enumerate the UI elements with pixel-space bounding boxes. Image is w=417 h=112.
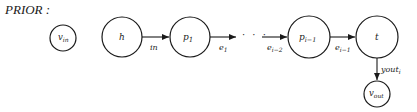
svg-text:e1: e1 xyxy=(219,43,228,53)
node-t: t xyxy=(356,16,398,58)
node-v-out: vout xyxy=(364,81,390,107)
node-p-i-minus-1: pi−1 xyxy=(288,16,330,58)
svg-text:in: in xyxy=(150,43,158,52)
node-v-in: vin xyxy=(50,25,76,51)
diagram-title: PRIOR : xyxy=(4,2,50,17)
ellipsis: · · · xyxy=(242,29,268,40)
edge-p-i-minus-1-to-t: ei−1 xyxy=(330,37,355,53)
node-h: h xyxy=(102,17,142,57)
svg-text:ei−2: ei−2 xyxy=(267,43,283,53)
edge-p1-to-ellipsis: e1 xyxy=(210,37,236,53)
prior-diagram: PRIOR : vin h p1 pi−1 t vout in e1 · · · xyxy=(0,0,417,112)
edge-t-to-v-out: youti xyxy=(377,58,401,80)
svg-text:t: t xyxy=(375,32,379,42)
edge-h-to-p1: in xyxy=(142,37,169,52)
svg-text:ei−1: ei−1 xyxy=(335,43,351,53)
svg-text:h: h xyxy=(119,32,125,42)
svg-text:youti: youti xyxy=(380,65,401,75)
node-p1: p1 xyxy=(170,17,210,57)
